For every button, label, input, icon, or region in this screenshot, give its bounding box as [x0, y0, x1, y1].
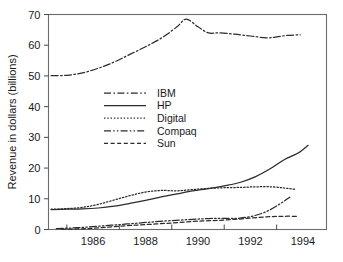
- chart-canvas: 010203040506070 19861988199019921994 Rev…: [0, 0, 343, 262]
- revenue-line-chart: 010203040506070 19861988199019921994 Rev…: [0, 0, 343, 262]
- legend-label-sun: Sun: [157, 137, 176, 149]
- legend-label-ibm: IBM: [157, 87, 176, 99]
- x-tick-label-1986: 1986: [81, 235, 105, 247]
- y-tick-label-40: 40: [28, 101, 40, 113]
- x-tick-label-1990: 1990: [186, 235, 210, 247]
- y-tick-label-0: 0: [34, 224, 40, 236]
- legend-label-compaq: Compaq: [157, 125, 197, 137]
- x-tick-label-1988: 1988: [133, 235, 157, 247]
- y-tick-label-50: 50: [28, 70, 40, 82]
- y-tick-label-10: 10: [28, 193, 40, 205]
- legend-label-hp: HP: [157, 99, 172, 111]
- legend-label-digital: Digital: [157, 112, 186, 124]
- y-tick-label-60: 60: [28, 39, 40, 51]
- x-tick-label-1992: 1992: [238, 235, 262, 247]
- y-axis-label: Revenue in dollars (billions): [6, 54, 18, 189]
- x-tick-label-1994: 1994: [291, 235, 315, 247]
- y-tick-label-70: 70: [28, 9, 40, 21]
- y-tick-label-30: 30: [28, 131, 40, 143]
- y-tick-label-20: 20: [28, 162, 40, 174]
